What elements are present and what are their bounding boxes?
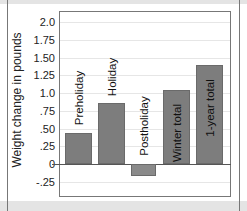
y-tick-label: 1.75 <box>34 34 55 46</box>
gridline <box>60 58 230 59</box>
gridline <box>60 22 230 23</box>
y-tick-label: .25 <box>40 140 55 152</box>
y-tick-label: 1.50 <box>34 52 55 64</box>
gridline <box>60 182 230 183</box>
y-tick-label: .75 <box>40 105 55 117</box>
bar-label: Holiday <box>106 58 118 96</box>
y-tick-label: 2.0 <box>40 16 55 28</box>
y-tick-label: .50 <box>40 123 55 135</box>
gridline <box>60 40 230 41</box>
bar-label: Winter total <box>171 104 183 162</box>
bar-postholiday <box>131 164 156 176</box>
y-axis-label: Weight change in pounds <box>10 32 24 167</box>
bar-label: Postholiday <box>138 96 150 155</box>
y-tick-label: -.25 <box>36 176 55 188</box>
y-tick-label: 1.25 <box>34 69 55 81</box>
bar-preholiday <box>65 133 92 164</box>
bar-label: 1-year total <box>204 79 216 137</box>
bar-label: Preholiday <box>73 71 85 125</box>
bar-holiday <box>98 103 125 164</box>
y-tick-label: 1.0 <box>40 87 55 99</box>
